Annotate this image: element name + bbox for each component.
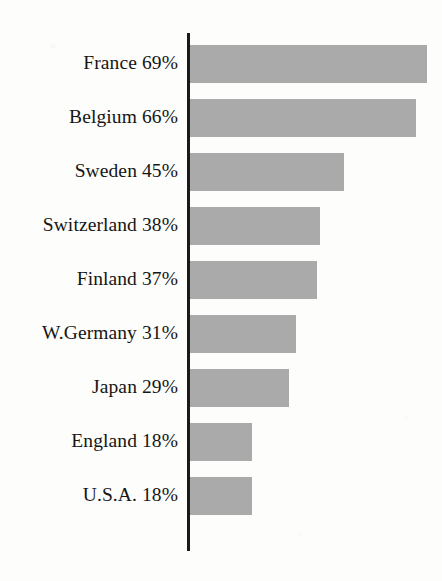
bar-label-u-s-a: U.S.A. 18% [83, 484, 178, 506]
bar-chart: France 69%Belgium 66%Sweden 45%Switzerla… [0, 0, 442, 581]
bar-label-w-germany: W.Germany 31% [42, 322, 178, 344]
bar-label-france: France 69% [83, 52, 178, 74]
bar-sweden [190, 153, 344, 191]
bar-row: Switzerland 38% [0, 207, 442, 245]
bar-row: Sweden 45% [0, 153, 442, 191]
bar-switzerland [190, 207, 320, 245]
bar-row: W.Germany 31% [0, 315, 442, 353]
bar-w-germany [190, 315, 296, 353]
bar-finland [190, 261, 317, 299]
bar-row: Belgium 66% [0, 99, 442, 137]
bar-belgium [190, 99, 416, 137]
bar-row: France 69% [0, 45, 442, 83]
bar-u-s-a [190, 477, 252, 515]
bar-label-sweden: Sweden 45% [75, 160, 178, 182]
bar-france [190, 45, 427, 83]
bar-row: Finland 37% [0, 261, 442, 299]
bar-label-finland: Finland 37% [77, 268, 178, 290]
plot-area: France 69%Belgium 66%Sweden 45%Switzerla… [0, 0, 442, 581]
bar-label-japan: Japan 29% [92, 376, 178, 398]
bar-row: U.S.A. 18% [0, 477, 442, 515]
bar-row: Japan 29% [0, 369, 442, 407]
bar-label-switzerland: Switzerland 38% [43, 214, 178, 236]
bar-england [190, 423, 252, 461]
bar-row: England 18% [0, 423, 442, 461]
bar-japan [190, 369, 289, 407]
bar-label-belgium: Belgium 66% [69, 106, 178, 128]
bar-label-england: England 18% [71, 430, 178, 452]
